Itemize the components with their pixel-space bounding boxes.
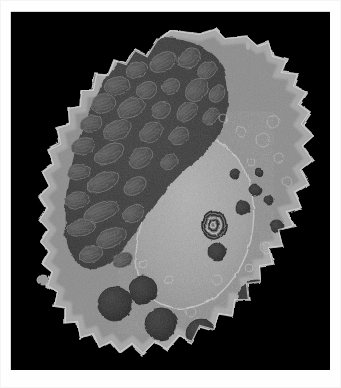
debris-speck <box>246 42 250 50</box>
micrograph-canvas <box>11 12 330 370</box>
membrane-fragment <box>37 275 49 285</box>
electron-micrograph <box>11 12 330 370</box>
figure-page <box>0 0 341 388</box>
